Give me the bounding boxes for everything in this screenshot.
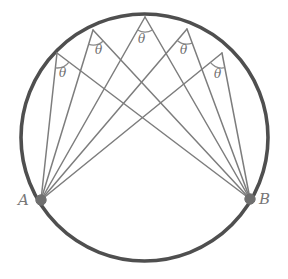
- theta-label-4: θ: [180, 43, 187, 57]
- circle-outline-group: [21, 14, 268, 261]
- chord-line: [145, 17, 250, 199]
- chord-line: [187, 29, 250, 199]
- chord-line: [41, 30, 93, 200]
- endpoint-dot-a: [36, 195, 46, 205]
- circle-outline: [21, 14, 268, 261]
- theta-label-1: θ: [59, 66, 66, 80]
- point-label-b: B: [259, 190, 270, 208]
- chord-line: [93, 30, 250, 199]
- point-label-a: A: [18, 191, 29, 209]
- endpoint-dot-b: [245, 194, 255, 204]
- chord-line: [41, 29, 187, 200]
- chord-line: [41, 53, 57, 200]
- chord-line: [222, 53, 250, 199]
- theta-label-3: θ: [138, 32, 145, 46]
- chord-line: [41, 53, 222, 200]
- chord-lines-group: [41, 17, 250, 200]
- diagram-canvas: ABθθθθθ: [0, 0, 288, 279]
- endpoint-dots-group: [36, 194, 255, 205]
- theta-label-2: θ: [95, 43, 102, 57]
- theta-label-5: θ: [214, 67, 221, 81]
